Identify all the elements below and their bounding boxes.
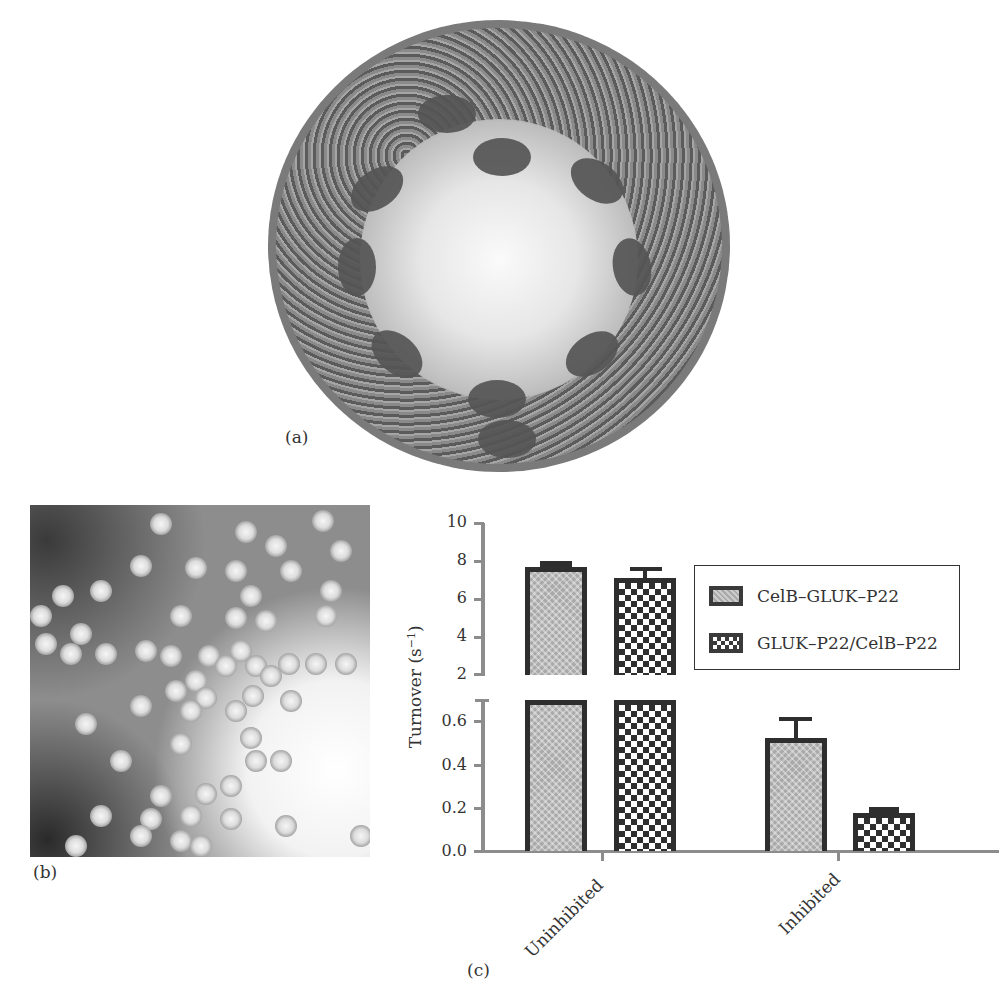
axis-break-cap xyxy=(475,699,489,702)
cargo-protein xyxy=(418,95,476,133)
legend-swatch-checker xyxy=(709,633,743,653)
x-tick xyxy=(837,852,840,861)
bar-uninhibited-celb-gluk-p22-lower xyxy=(525,700,587,851)
y-tick-label: 0.6 xyxy=(427,711,467,730)
y-tick xyxy=(474,598,484,601)
bar-uninhibited-gluk-p22-celb-p22-lower xyxy=(614,700,676,851)
cargo-protein xyxy=(478,420,536,458)
panel-a-label: (a) xyxy=(285,427,308,447)
y-tick-label: 10 xyxy=(427,512,467,531)
legend-swatch-dots xyxy=(709,586,743,606)
panel-c-label: (c) xyxy=(467,960,490,980)
bar-inhibited-gluk-p22-celb-p22 xyxy=(853,813,915,851)
y-axis-lower xyxy=(481,700,485,852)
error-bar-stem xyxy=(794,718,798,739)
y-tick xyxy=(474,764,484,767)
bar-inhibited-celb-gluk-p22 xyxy=(765,738,827,851)
error-bar-cap xyxy=(779,717,812,721)
y-tick-label: 8 xyxy=(427,550,467,569)
bar-uninhibited-gluk-p22-celb-p22-upper xyxy=(614,578,676,675)
cargo-protein xyxy=(468,380,526,418)
x-category-label: Inhibited xyxy=(770,869,844,943)
error-bar-cap xyxy=(869,807,899,813)
cargo-protein xyxy=(473,138,531,176)
y-tick xyxy=(474,636,484,639)
error-bar-stem xyxy=(643,569,647,579)
bar-uninhibited-celb-gluk-p22-upper xyxy=(525,567,587,675)
x-category-label: Uninhibited xyxy=(515,875,607,967)
error-bar-cap xyxy=(630,567,662,571)
error-bar-cap xyxy=(540,561,572,567)
y-tick xyxy=(474,522,484,525)
y-tick-label: 0.4 xyxy=(427,755,467,774)
y-tick-label: 2 xyxy=(427,664,467,683)
cargo-protein xyxy=(338,238,376,296)
y-tick-label: 4 xyxy=(427,626,467,645)
x-tick xyxy=(601,852,604,861)
y-axis-label: Turnover (s−1) xyxy=(405,628,426,748)
capsid-model-image xyxy=(268,20,730,472)
legend-label: GLUK–P22/CelB–P22 xyxy=(757,633,938,653)
y-tick xyxy=(474,807,484,810)
y-axis-upper xyxy=(481,523,485,676)
y-tick xyxy=(474,720,484,723)
legend-item: GLUK–P22/CelB–P22 xyxy=(709,633,938,653)
legend-label: CelB–GLUK–P22 xyxy=(757,586,899,606)
y-tick xyxy=(474,673,484,676)
x-axis xyxy=(474,850,999,853)
y-tick-label: 0.0 xyxy=(427,841,467,860)
y-tick-label: 6 xyxy=(427,588,467,607)
legend-item: CelB–GLUK–P22 xyxy=(709,586,899,606)
y-tick xyxy=(474,560,484,563)
panel-b-label: (b) xyxy=(33,862,57,882)
tem-micrograph-image xyxy=(30,505,370,857)
y-tick-label: 0.2 xyxy=(427,798,467,817)
chart-legend: CelB–GLUK–P22 GLUK–P22/CelB–P22 xyxy=(694,565,960,670)
